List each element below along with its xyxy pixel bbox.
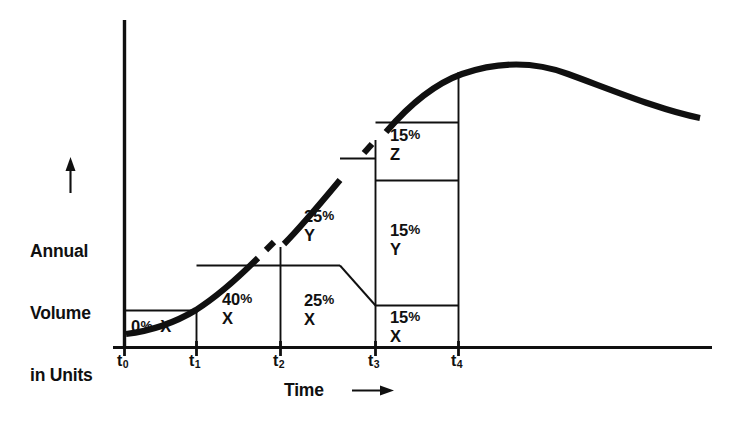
block-1-percent-value: 40 <box>222 290 240 308</box>
block-3-percent-value: 25 <box>304 291 322 309</box>
block-25x-slope-edge <box>340 266 376 306</box>
tick-label-t0-sub: 0 <box>123 358 129 370</box>
tick-label-t4-sub: 4 <box>457 358 463 370</box>
block-label-25-percent-x: 25%X <box>304 291 333 330</box>
tick-label-t3-sub: 3 <box>374 358 380 370</box>
y-axis-title: Annual Volume in Units <box>30 200 93 427</box>
y-axis-arrow-icon <box>66 157 76 193</box>
block-4-product-letter: Z <box>390 145 419 164</box>
block-5-percent-value: 15 <box>390 221 408 239</box>
block-4-percent-value: 15 <box>390 126 408 144</box>
block-2-percent-value: 25 <box>304 207 322 225</box>
tick-label-t2: t2 <box>273 352 284 371</box>
block-label-25-percent-y: 25%Y <box>304 207 333 246</box>
tick-label-t1: t1 <box>189 352 200 371</box>
block-3-product-letter: X <box>304 310 333 329</box>
block-3-percent-symbol: % <box>322 292 334 307</box>
curve-dash-near-t2 <box>266 242 274 250</box>
segment-partition-lines <box>125 72 459 347</box>
block-5-product-letter: Y <box>390 240 419 259</box>
y-axis-title-line3: in Units <box>30 365 93 386</box>
block-label-0-percent-x: 0% X <box>131 317 171 336</box>
tick-label-t3-base: t <box>368 352 373 369</box>
block-2-product-letter: Y <box>304 226 333 245</box>
block-5-percent-symbol: % <box>408 222 420 237</box>
tick-label-t4: t4 <box>451 352 462 371</box>
block-label-15-percent-x: 15%X <box>390 308 419 347</box>
tick-label-t2-base: t <box>273 352 278 369</box>
tick-label-t0-base: t <box>117 352 122 369</box>
block-1-percent-symbol: % <box>240 291 252 306</box>
block-6-percent-symbol: % <box>408 309 420 324</box>
tick-label-t2-sub: 2 <box>279 358 285 370</box>
curve-dash-near-t3 <box>364 144 372 153</box>
life-cycle-curve <box>126 65 700 334</box>
block-label-40-percent-x: 40%X <box>222 290 251 329</box>
product-life-cycle-chart: Annual Volume in Units Time t0 t1 t2 t3 … <box>0 0 735 431</box>
x-axis-title: Time <box>284 380 324 401</box>
tick-label-t1-base: t <box>189 352 194 369</box>
block-6-percent-value: 15 <box>390 308 408 326</box>
tick-label-t0: t0 <box>117 352 128 371</box>
block-1-product-letter: X <box>222 309 251 328</box>
tick-label-t4-base: t <box>451 352 456 369</box>
tick-label-t3: t3 <box>368 352 379 371</box>
y-axis-title-line1: Annual <box>30 241 93 262</box>
block-4-percent-symbol: % <box>408 127 420 142</box>
block-6-product-letter: X <box>390 327 419 346</box>
block-2-percent-symbol: % <box>322 208 334 223</box>
block-label-15-percent-y: 15%Y <box>390 221 419 260</box>
tick-label-t1-sub: 1 <box>195 358 201 370</box>
block-0-percent-symbol: % <box>140 318 152 333</box>
x-axis-arrow-icon <box>352 386 394 396</box>
y-axis-title-line2: Volume <box>30 303 93 324</box>
block-0-percent-value: 0 <box>131 317 140 335</box>
block-0-product-letter: X <box>160 317 171 335</box>
block-label-15-percent-z: 15%Z <box>390 126 419 165</box>
